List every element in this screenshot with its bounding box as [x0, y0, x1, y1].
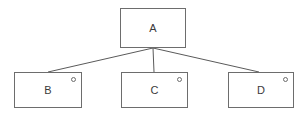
- node-c-label: C: [150, 85, 158, 96]
- node-b-label: B: [44, 85, 52, 96]
- node-d-circle-marker-icon: [283, 77, 288, 82]
- node-d[interactable]: D: [228, 72, 294, 108]
- node-a[interactable]: A: [120, 8, 186, 48]
- node-c[interactable]: C: [121, 72, 188, 108]
- node-a-label: A: [149, 23, 157, 34]
- diagram-canvas: A B C D: [0, 0, 307, 120]
- node-d-label: D: [257, 85, 265, 96]
- edge-a-b: [48, 48, 153, 72]
- node-b[interactable]: B: [14, 72, 82, 108]
- edge-a-c: [153, 48, 154, 72]
- node-c-circle-marker-icon: [177, 77, 182, 82]
- node-b-circle-marker-icon: [71, 77, 76, 82]
- edge-a-d: [153, 48, 259, 72]
